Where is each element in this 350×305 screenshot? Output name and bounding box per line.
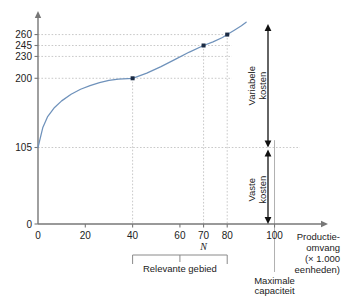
- axes-group: [35, 11, 329, 228]
- cost-behavior-chart: 010520023024526002040607080100N Relevant…: [0, 0, 350, 305]
- svg-text:70: 70: [198, 230, 210, 241]
- svg-text:245: 245: [15, 40, 32, 51]
- svg-text:Relevante gebied: Relevante gebied: [143, 263, 217, 274]
- svg-text:105: 105: [15, 142, 32, 153]
- svg-text:0: 0: [26, 219, 32, 230]
- svg-text:capaciteit: capaciteit: [254, 285, 294, 296]
- svg-text:40: 40: [127, 230, 139, 241]
- svg-text:100: 100: [266, 230, 283, 241]
- svg-text:kosten: kosten: [257, 72, 268, 100]
- tick-labels-group: 010520023024526002040607080100N: [15, 29, 283, 252]
- svg-text:Vaste: Vaste: [246, 178, 257, 202]
- svg-text:20: 20: [80, 230, 92, 241]
- gridlines-group: [38, 35, 300, 272]
- svg-text:eenheden): eenheden): [295, 264, 340, 275]
- svg-text:omvang: omvang: [306, 242, 340, 253]
- svg-text:N: N: [199, 241, 208, 252]
- svg-text:230: 230: [15, 51, 32, 62]
- cost-curve: [38, 22, 246, 147]
- svg-text:200: 200: [15, 73, 32, 84]
- svg-text:kosten: kosten: [257, 176, 268, 204]
- chart-container: 010520023024526002040607080100N Relevant…: [0, 0, 350, 305]
- svg-text:60: 60: [174, 230, 186, 241]
- svg-text:Variabele: Variabele: [246, 66, 257, 105]
- svg-text:0: 0: [35, 230, 41, 241]
- svg-text:80: 80: [222, 230, 234, 241]
- svg-text:260: 260: [15, 29, 32, 40]
- svg-text:Productie-: Productie-: [297, 231, 340, 242]
- svg-text:(× 1.000: (× 1.000: [305, 253, 340, 264]
